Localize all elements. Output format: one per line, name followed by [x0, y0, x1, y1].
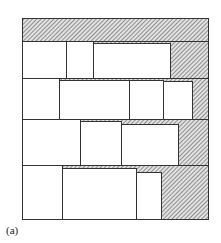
hatched-row1-right — [170, 41, 208, 78]
hatched-row3-right — [178, 119, 208, 165]
row-1-item-2 — [67, 42, 94, 79]
row-4-item-2 — [63, 169, 137, 220]
row-2-item-2 — [60, 81, 130, 120]
row-4-item-3 — [137, 173, 162, 220]
row-2-item-1 — [23, 79, 60, 120]
hatched-top-band — [22, 18, 208, 41]
hatched-row2-right — [192, 78, 208, 119]
figure-label: (a) — [6, 224, 18, 236]
row-3-item-3 — [122, 125, 179, 166]
row-2-item-3 — [130, 81, 164, 120]
row-4-item-1 — [23, 166, 63, 220]
row-1-item-1 — [23, 42, 67, 79]
row-2-item-4 — [164, 82, 193, 120]
row-3-item-1 — [23, 120, 81, 166]
hatched-row4-right — [161, 165, 208, 219]
row-1-item-3 — [94, 44, 171, 79]
row-3-item-2 — [81, 122, 122, 166]
strip-packing-diagram — [0, 0, 221, 243]
